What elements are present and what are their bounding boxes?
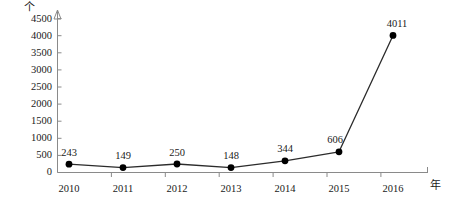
x-tick-label: 2011 [95, 184, 151, 195]
y-tick-label: 4000 [12, 31, 52, 42]
x-axis-ticks [111, 173, 381, 178]
data-point-label: 149 [98, 151, 148, 162]
y-tick-label: 2500 [12, 82, 52, 93]
y-tick-label: 0 [12, 167, 52, 178]
data-point [228, 164, 235, 171]
x-tick-label: 2012 [149, 184, 205, 195]
x-tick-label: 2014 [257, 184, 313, 195]
data-point [282, 157, 289, 164]
data-point [66, 161, 73, 168]
x-tick-label: 2015 [311, 184, 367, 195]
data-point [120, 164, 127, 171]
y-tick-label: 2000 [12, 99, 52, 110]
line-chart: 个 年 4500 4000 3500 3000 2500 2000 1500 1… [0, 0, 452, 207]
chart-canvas [0, 0, 452, 207]
data-point [390, 32, 397, 39]
data-point-label: 243 [44, 148, 94, 159]
x-axis-unit-label: 年 [430, 180, 441, 191]
data-point [174, 161, 181, 168]
y-tick-label: 3000 [12, 65, 52, 76]
y-tick-label: 3500 [12, 48, 52, 59]
data-point-label: 606 [310, 135, 360, 146]
y-tick-label: 1000 [12, 133, 52, 144]
x-tick-label: 2016 [365, 184, 421, 195]
data-point-label: 4011 [372, 19, 422, 30]
data-point-label: 148 [206, 151, 256, 162]
y-axis-unit-label: 个 [24, 2, 35, 13]
data-series-line [69, 35, 393, 167]
x-tick-label: 2013 [203, 184, 259, 195]
data-point-label: 250 [152, 148, 202, 159]
y-tick-label: 4500 [12, 14, 52, 25]
data-point-label: 344 [260, 144, 310, 155]
x-tick-label: 2010 [41, 184, 97, 195]
x-axis [58, 167, 429, 177]
data-point [336, 148, 343, 155]
y-tick-label: 1500 [12, 116, 52, 127]
